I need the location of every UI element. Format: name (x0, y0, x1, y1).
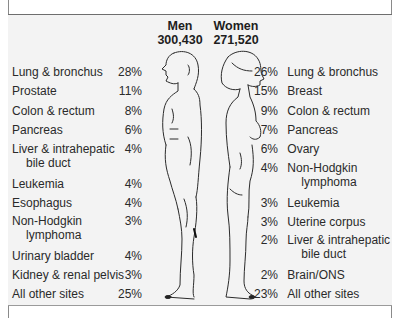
site-label: Breast (287, 84, 322, 98)
male-figure-icon (144, 49, 210, 305)
men-site-row: Pancreas 6% (12, 123, 142, 137)
men-site-row: Urinary bladder 4% (12, 249, 142, 263)
site-label: Kidney & renal pelvis (12, 268, 124, 282)
female-figure-icon (208, 49, 274, 305)
site-label: Prostate (12, 84, 57, 98)
men-site-row: Colon & rectum 8% (12, 104, 142, 118)
site-label: Lung & bronchus (287, 65, 378, 79)
site-label: Non-Hodgkin (12, 214, 142, 228)
site-label-block: Non-Hodgkin lymphoma (287, 161, 357, 189)
men-title: Men (152, 19, 208, 33)
site-percent: 11% (119, 84, 142, 98)
men-site-row: Prostate 11% (12, 84, 142, 98)
site-label: Colon & rectum (12, 104, 95, 118)
men-count: 300,430 (152, 33, 208, 47)
site-label: All other sites (12, 287, 84, 301)
site-label-line2: lymphoma (12, 228, 142, 242)
site-label: Esophagus (12, 196, 72, 210)
site-percent: 4% (125, 142, 142, 156)
site-label-line2: bile duct (12, 156, 142, 170)
women-header: Women 271,520 (206, 19, 266, 47)
cancer-deaths-panel: Men 300,430 Women 271,520 Lung & bronchu… (8, 14, 392, 306)
site-percent: 4% (125, 177, 142, 191)
site-label-block: Liver & intrahepatic bile duct (287, 233, 390, 261)
site-label: Pancreas (12, 123, 63, 137)
site-label: Ovary (287, 142, 319, 156)
men-site-row: Lung & bronchus 28% (12, 65, 142, 79)
site-label: Leukemia (12, 177, 64, 191)
site-label: Colon & rectum (287, 104, 370, 118)
men-site-row: Non-Hodgkin lymphoma 3% (12, 214, 142, 242)
site-label: Liver & intrahepatic (287, 233, 390, 247)
site-label: Liver & intrahepatic (12, 142, 142, 156)
site-percent: 6% (125, 123, 142, 137)
site-percent: 8% (125, 104, 142, 118)
site-label: Brain/ONS (287, 268, 344, 282)
women-count: 271,520 (206, 33, 266, 47)
men-site-row: Leukemia 4% (12, 177, 142, 191)
site-percent: 3% (125, 268, 142, 282)
site-label: Pancreas (287, 123, 338, 137)
site-percent: 25% (118, 287, 142, 301)
men-site-row: Kidney & renal pelvis 3% (12, 268, 142, 282)
men-site-row: All other sites 25% (12, 287, 142, 301)
site-label: Lung & bronchus (12, 65, 103, 79)
site-label: Leukemia (287, 196, 339, 210)
site-percent: 4% (125, 196, 142, 210)
site-label: All other sites (287, 287, 359, 301)
women-title: Women (206, 19, 266, 33)
site-label: Non-Hodgkin (287, 161, 357, 175)
site-percent: 4% (125, 249, 142, 263)
site-label: Uterine corpus (287, 215, 365, 229)
site-label: Urinary bladder (12, 249, 94, 263)
men-header: Men 300,430 (152, 19, 208, 47)
men-site-row: Liver & intrahepatic bile duct 4% (12, 142, 142, 170)
site-label-line2: lymphoma (287, 175, 357, 189)
site-percent: 28% (118, 65, 142, 79)
site-percent: 3% (125, 214, 142, 228)
men-site-row: Esophagus 4% (12, 196, 142, 210)
site-label-line2: bile duct (287, 247, 390, 261)
